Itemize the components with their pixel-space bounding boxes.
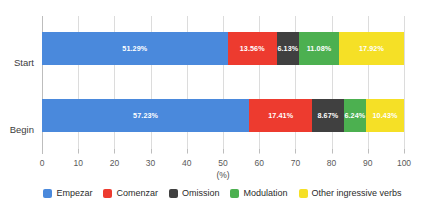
legend-swatch-icon (103, 189, 112, 198)
bar-segment-label: 57.23% (133, 111, 158, 120)
legend-item[interactable]: Comenzar (103, 188, 158, 198)
x-tick-mark (259, 149, 260, 153)
bar-segment: 6.13% (277, 32, 299, 65)
bar-segment-label: 51.29% (122, 44, 147, 53)
x-tick-label: 30 (146, 158, 155, 168)
legend-label: Comenzar (116, 188, 158, 198)
legend-swatch-icon (299, 189, 308, 198)
legend-item[interactable]: Other ingressive verbs (299, 188, 402, 198)
x-tick-mark (151, 149, 152, 153)
x-tick-mark (187, 149, 188, 153)
x-tick-label: 50 (218, 158, 227, 168)
x-tick-mark (78, 149, 79, 153)
x-tick-label: 100 (397, 158, 411, 168)
legend-item[interactable]: Modulation (230, 188, 287, 198)
x-tick-label: 40 (182, 158, 191, 168)
x-tick-mark (114, 149, 115, 153)
bar-segment: 13.56% (228, 32, 277, 65)
y-axis-label-start: Start (0, 57, 34, 68)
x-tick-label: 10 (73, 158, 82, 168)
legend-item[interactable]: Empezar (43, 188, 92, 198)
y-axis-labels: Start Begin (0, 32, 42, 170)
x-axis-title: (%) (42, 170, 404, 180)
bar-segment: 11.08% (299, 32, 339, 65)
x-tick-label: 60 (254, 158, 263, 168)
bar-rows: 51.29%13.56%6.13%11.08%17.92%57.23%17.41… (42, 16, 404, 154)
bar-row: 57.23%17.41%8.67%6.24%10.43% (42, 99, 404, 132)
x-tick-mark (368, 149, 369, 153)
x-tick-label: 70 (291, 158, 300, 168)
bar-segment-label: 13.56% (240, 44, 265, 53)
bar-segment-label: 6.24% (344, 111, 365, 120)
stacked-bar-chart: 51.29%13.56%6.13%11.08%17.92%57.23%17.41… (0, 0, 445, 212)
x-tick-label: 20 (110, 158, 119, 168)
bar-segment-label: 10.43% (373, 111, 398, 120)
bar-segment: 57.23% (42, 99, 249, 132)
bar-segment: 6.24% (344, 99, 367, 132)
bar-segment-label: 17.41% (268, 111, 293, 120)
gridline (404, 16, 405, 154)
legend-swatch-icon (43, 189, 52, 198)
x-tick-label: 90 (363, 158, 372, 168)
legend-label: Omission (182, 188, 220, 198)
plot-area: 51.29%13.56%6.13%11.08%17.92%57.23%17.41… (42, 16, 404, 154)
x-tick-mark (42, 149, 43, 153)
x-tick-mark (404, 149, 405, 153)
legend-swatch-icon (169, 189, 178, 198)
bar-segment: 8.67% (312, 99, 343, 132)
x-tick-label: 80 (327, 158, 336, 168)
legend-item[interactable]: Omission (169, 188, 220, 198)
x-tick-mark (295, 149, 296, 153)
bar-row: 51.29%13.56%6.13%11.08%17.92% (42, 32, 404, 65)
legend-label: Other ingressive verbs (312, 188, 402, 198)
bar-segment: 17.92% (339, 32, 404, 65)
bar-segment: 10.43% (366, 99, 404, 132)
legend-swatch-icon (230, 189, 239, 198)
bar-segment-label: 6.13% (277, 44, 298, 53)
legend-label: Empezar (56, 188, 92, 198)
legend-label: Modulation (243, 188, 287, 198)
bar-segment-label: 11.08% (307, 44, 332, 53)
x-tick-mark (223, 149, 224, 153)
bar-segment: 17.41% (249, 99, 312, 132)
y-axis-label-begin: Begin (0, 124, 34, 135)
bar-segment: 51.29% (42, 32, 228, 65)
x-tick-mark (332, 149, 333, 153)
bar-segment-label: 8.67% (317, 111, 338, 120)
x-tick-label: 0 (40, 158, 45, 168)
bar-segment-label: 17.92% (359, 44, 384, 53)
chart-legend: EmpezarComenzarOmissionModulationOther i… (0, 188, 445, 198)
